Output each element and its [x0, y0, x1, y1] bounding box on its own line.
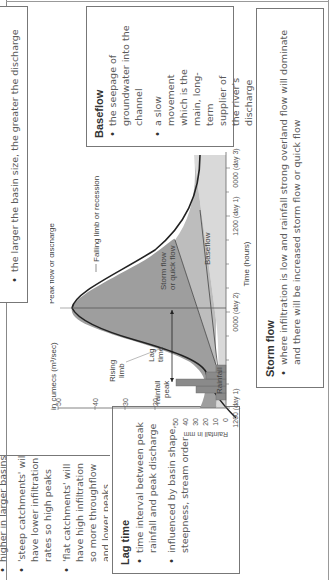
svg-text:20: 20: [202, 418, 209, 426]
rainfall-ticks: 0 10 20 30 40 50: [172, 418, 229, 426]
storm-flow-heading: Storm flow: [264, 19, 276, 377]
catchments-bullet: higher in larger basins: [0, 456, 9, 562]
lag-time-label-1: Lag: [147, 349, 156, 362]
rising-limb-label-2: limb: [117, 363, 126, 378]
lag-time-label-2: time: [156, 346, 165, 362]
svg-text:30: 30: [122, 398, 129, 406]
baseflow-heading: Baseflow: [93, 15, 105, 138]
x-tick-label: 1200 (day 1): [232, 388, 240, 427]
catchments-bullet: 'steep catchments' will have lower infil…: [15, 456, 54, 562]
x-ticks: [226, 168, 230, 408]
svg-text:10: 10: [212, 418, 219, 426]
catchments-bullet: 'flat catchments' will have high infiltr…: [60, 456, 108, 562]
svg-text:0: 0: [222, 418, 229, 422]
rainfall-label: Rainfall: [215, 367, 224, 394]
baseflow-bullet: the seepage of groundwater into the chan…: [106, 15, 145, 126]
x-tick-label: 1200 (day 1): [232, 196, 240, 235]
rising-limb-label-1: Rising: [108, 360, 117, 382]
baseflow-box: Baseflow the seepage of groundwater into…: [86, 6, 234, 147]
svg-text:40: 40: [182, 418, 189, 426]
falling-limb-label: Falling limb or recession: [92, 176, 101, 262]
y-axis-label-line2: in cumecs (m³/sec): [50, 342, 58, 410]
basin-size-bullet: the larger the basin size, the greater t…: [8, 15, 21, 272]
basin-size-note: the larger the basin size, the greater t…: [0, 6, 28, 303]
rainfall-axis-label: Rainfall in mm: [183, 431, 228, 438]
storm-flow-box: Storm flow where infiltration is low and…: [256, 8, 324, 388]
x-tick-label: 0000 (day 2): [232, 292, 240, 331]
rotated-page: higher in larger basins 'steep catchment…: [0, 0, 333, 580]
catchments-section: higher in larger basins 'steep catchment…: [0, 456, 108, 574]
catchments-box-edge: [0, 455, 110, 456]
rainfall-peak-label-2: peak: [162, 380, 171, 398]
storm-hydrograph-chart: 50 40 30 20 0 10 20 30 40 50 Rainfall in…: [50, 140, 255, 440]
storm-flow-label-1: Storm flow: [159, 252, 168, 290]
baseflow-bullet: a slow movement which is the main, long-…: [151, 64, 255, 126]
storm-flow-bullet: where infiltration is low and rainfall s…: [277, 19, 303, 365]
rainfall-peak-label-1: rainfall: [153, 380, 162, 404]
x-tick-label: 0000 (day 3): [232, 148, 240, 187]
svg-text:50: 50: [172, 418, 179, 426]
svg-text:40: 40: [92, 398, 99, 406]
peak-flow-label: Peak flow or discharge: [50, 223, 56, 304]
svg-text:30: 30: [192, 418, 199, 426]
page-frame-bottom: [328, 0, 329, 580]
baseflow-label: Baseflow: [203, 232, 212, 265]
x-axis-label: Time (hours): [242, 241, 251, 286]
storm-flow-label-2: or quick flow: [168, 245, 177, 290]
page-frame-right: [6, 1, 328, 2]
